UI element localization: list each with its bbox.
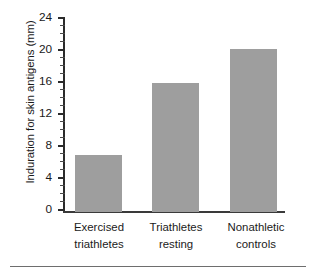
y-tick-label-24: 24	[39, 12, 52, 24]
x-label-nonathletic-controls: Nonathletic controls	[209, 219, 303, 253]
y-tick-minor-18	[60, 65, 65, 66]
bar-exercised-triathletes	[75, 155, 122, 212]
x-label-triathletes-resting: Triathletes resting	[132, 219, 220, 253]
y-tick-major-20: 20	[58, 49, 65, 51]
y-tick-major-24: 24	[58, 17, 65, 19]
y-tick-minor-1	[60, 201, 65, 202]
x-axis-category-labels: Exercised triathletes Triathletes restin…	[63, 219, 285, 259]
y-tick-minor-15	[60, 89, 65, 90]
y-tick-label-12: 12	[39, 108, 52, 120]
y-tick-major-12: 12	[58, 113, 65, 115]
bar-chart-figure: Induration for skin antigens (mm) 0 4 8 …	[0, 0, 316, 277]
y-tick-minor-5	[60, 169, 65, 170]
y-tick-minor-14	[60, 97, 65, 98]
y-tick-label-8: 8	[45, 140, 52, 152]
y-tick-major-16: 16	[58, 81, 65, 83]
y-tick-major-8: 8	[58, 145, 65, 147]
x-label-line-1: Triathletes	[132, 219, 220, 236]
y-tick-minor-19	[60, 57, 65, 58]
x-label-exercised-triathletes: Exercised triathletes	[54, 219, 144, 253]
x-label-line-2: triathletes	[54, 236, 144, 253]
y-tick-minor-7	[60, 153, 65, 154]
y-tick-minor-23	[60, 25, 65, 26]
y-tick-label-20: 20	[39, 44, 52, 56]
y-tick-minor-21	[60, 41, 65, 42]
y-tick-major-4: 4	[58, 177, 65, 179]
y-tick-minor-10	[60, 129, 65, 130]
y-tick-minor-22	[60, 33, 65, 34]
x-label-line-2: resting	[132, 236, 220, 253]
y-tick-label-0: 0	[45, 204, 52, 216]
y-axis-title: Induration for skin antigens (mm)	[24, 0, 36, 208]
y-tick-label-16: 16	[39, 76, 52, 88]
y-tick-label-4: 4	[45, 172, 52, 184]
x-label-line-1: Exercised	[54, 219, 144, 236]
y-tick-minor-17	[60, 73, 65, 74]
y-tick-minor-3	[60, 185, 65, 186]
y-tick-minor-2	[60, 193, 65, 194]
bar-triathletes-resting	[152, 83, 199, 212]
y-tick-major-0: 0	[58, 209, 65, 211]
y-tick-minor-11	[60, 121, 65, 122]
x-label-line-2: controls	[209, 236, 303, 253]
plot-area: 0 4 8 12 16 20 24	[63, 18, 285, 214]
y-tick-minor-6	[60, 161, 65, 162]
x-label-line-1: Nonathletic	[209, 219, 303, 236]
y-tick-minor-9	[60, 137, 65, 138]
y-tick-minor-13	[60, 105, 65, 106]
bottom-divider-rule	[10, 266, 306, 267]
bar-nonathletic-controls	[230, 49, 277, 212]
